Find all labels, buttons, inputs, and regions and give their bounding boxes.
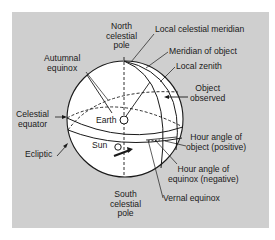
- local-celestial-meridian-label: Local celestial meridian: [155, 25, 244, 35]
- north-pole-label: North celestial pole: [106, 22, 137, 51]
- celestial-equator-label: Celestial equator: [16, 110, 49, 129]
- hour-angle-equinox-label: Hour angle of equinox (negative): [168, 165, 239, 184]
- label-line: object (positive): [186, 143, 246, 153]
- label-line: equinox: [44, 64, 80, 74]
- local-zenith-label: Local zenith: [176, 62, 222, 72]
- label-line: observed: [190, 94, 225, 104]
- meridian-of-object-label: Meridian of object: [169, 47, 237, 57]
- sun-label: Sun: [92, 141, 107, 151]
- label-line: equinox (negative): [168, 175, 239, 185]
- vernal-equinox-label: Vernal equinox: [163, 194, 220, 204]
- object-observed-label: Object observed: [190, 84, 225, 103]
- label-line: pole: [110, 209, 141, 219]
- label-line: equator: [16, 120, 49, 130]
- hour-angle-object-label: Hour angle of object (positive): [186, 133, 246, 152]
- earth-label: Earth: [96, 116, 117, 126]
- sun-marker: [115, 144, 121, 150]
- earth-marker: [120, 116, 128, 124]
- label-line: pole: [106, 41, 137, 51]
- ecliptic-label: Ecliptic: [25, 150, 52, 160]
- autumnal-equinox-label: Autumnal equinox: [44, 54, 80, 73]
- south-pole-label: South celestial pole: [110, 190, 141, 219]
